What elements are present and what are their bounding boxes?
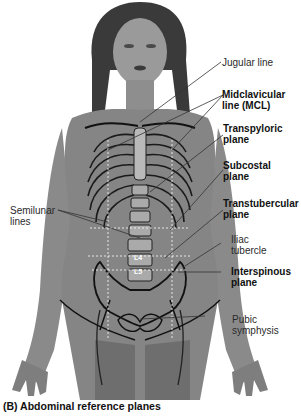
- label-subcostal-line1: Subcostal: [223, 160, 271, 171]
- label-iliac-line1: Iliac: [231, 234, 267, 245]
- figure-caption: (B) Abdominal reference planes: [3, 400, 161, 412]
- label-interspinous-line2: plane: [231, 277, 291, 288]
- label-subcostal-plane: Subcostal plane: [223, 160, 271, 182]
- label-semilunar-line2: lines: [10, 216, 55, 227]
- label-semilunar-line1: Semilunar: [10, 205, 55, 216]
- label-pubic-line2: symphysis: [232, 325, 279, 336]
- label-transtubercular-line1: Transtubercular: [223, 198, 299, 209]
- label-pubic-line1: Pubic: [232, 314, 279, 325]
- label-iliac-line2: tubercle: [231, 245, 267, 256]
- label-transtubercular-plane: Transtubercular plane: [223, 198, 299, 220]
- label-mcl-line2: line (MCL): [222, 100, 285, 111]
- label-semilunar-lines: Semilunar lines: [10, 205, 55, 227]
- label-midclavicular-line: Midclavicular line (MCL): [222, 89, 285, 111]
- vertebra-label-l5: L5: [134, 266, 142, 277]
- label-transtubercular-line2: plane: [223, 209, 299, 220]
- label-pubic-symphysis: Pubic symphysis: [232, 314, 279, 336]
- label-jugular-line-text: Jugular line: [222, 57, 273, 68]
- anatomy-figure: L4 L5 Jugular line Midclavicular line (M…: [0, 0, 301, 418]
- label-jugular-line: Jugular line: [222, 57, 273, 68]
- label-subcostal-line2: plane: [223, 171, 271, 182]
- label-transpyloric-line2: plane: [223, 134, 282, 145]
- label-interspinous-plane: Interspinous plane: [231, 266, 291, 288]
- label-mcl-line1: Midclavicular: [222, 89, 285, 100]
- label-iliac-tubercle: Iliac tubercle: [231, 234, 267, 256]
- vertebra-label-l4: L4: [134, 252, 142, 263]
- label-transpyloric-line1: Transpyloric: [223, 123, 282, 134]
- label-interspinous-line1: Interspinous: [231, 266, 291, 277]
- label-transpyloric-plane: Transpyloric plane: [223, 123, 282, 145]
